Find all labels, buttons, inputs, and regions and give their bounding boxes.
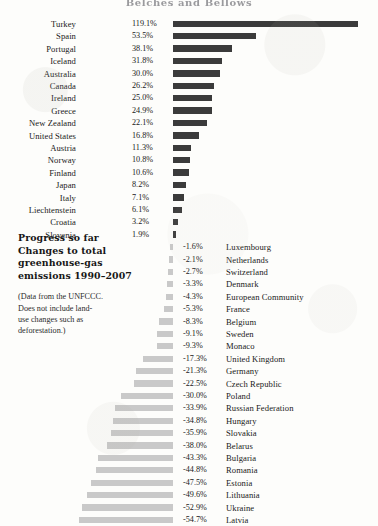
caption-heading-line-2: greenhouse-gas <box>18 257 158 270</box>
chart-row: Japan8.2% <box>0 179 378 191</box>
bar-positive <box>173 182 186 188</box>
bar-negative <box>168 269 173 275</box>
chart-row: -49.6%Lithuania <box>0 489 378 501</box>
bar-label-country: Ireland <box>51 92 76 104</box>
bar-label-country: New Zealand <box>29 117 76 129</box>
bar-label-country: Denmark <box>226 278 259 290</box>
chart-caption-block: Progress so farChanges to totalgreenhous… <box>18 232 158 336</box>
bar-label-country: Japan <box>56 179 76 191</box>
chart-row: New Zealand22.1% <box>0 117 378 129</box>
bar-label-country: Greece <box>51 105 76 117</box>
bar-positive <box>173 58 222 64</box>
bar-positive <box>173 83 214 89</box>
bar-negative <box>87 492 173 498</box>
bar-label-value: -8.3% <box>183 316 223 328</box>
bar-positive <box>173 70 220 76</box>
chart-row: Liechtenstein6.1% <box>0 204 378 216</box>
bar-negative <box>115 405 173 411</box>
bar-label-country: Slovakia <box>226 427 257 439</box>
bar-positive <box>173 132 199 138</box>
bar-label-value: -1.6% <box>183 241 223 253</box>
chart-row: -43.3%Bulgaria <box>0 452 378 464</box>
bar-label-value: -2.1% <box>183 254 223 266</box>
bar-negative <box>79 517 173 523</box>
bar-positive <box>173 45 232 51</box>
bar-label-country: Germany <box>226 365 259 377</box>
bar-label-value: -35.9% <box>183 427 223 439</box>
bar-label-country: Latvia <box>226 514 248 526</box>
bar-negative <box>166 294 173 300</box>
bar-label-country: Italy <box>60 192 76 204</box>
chart-row: -21.3%Germany <box>0 365 378 377</box>
bar-positive <box>173 145 191 151</box>
caption-note: (Data from the UNFCCC.Does not include l… <box>18 291 158 336</box>
bar-label-country: Czech Republic <box>226 378 282 390</box>
bar-negative <box>170 244 173 250</box>
bar-negative <box>134 380 173 386</box>
bar-label-value: 8.2% <box>132 179 168 191</box>
bar-label-country: Poland <box>226 390 250 402</box>
bar-label-value: -49.6% <box>183 489 223 501</box>
bar-negative <box>159 318 173 324</box>
chart-row: Iceland31.8% <box>0 55 378 67</box>
chart-row: Ireland25.0% <box>0 92 378 104</box>
chart-row: -35.9%Slovakia <box>0 427 378 439</box>
bar-label-value: -34.8% <box>183 415 223 427</box>
bar-label-country: Iceland <box>50 55 76 67</box>
bar-label-value: -47.5% <box>183 477 223 489</box>
bar-label-country: France <box>226 303 250 315</box>
chart-row: Finland10.6% <box>0 167 378 179</box>
bar-positive <box>173 157 190 163</box>
bar-label-value: 10.8% <box>132 154 168 166</box>
bar-label-value: -5.3% <box>183 303 223 315</box>
bar-positive <box>173 207 182 213</box>
caption-heading-line-0: Progress so far <box>18 232 158 245</box>
bar-label-country: Russian Federation <box>226 402 294 414</box>
bar-label-value: 16.8% <box>132 130 168 142</box>
bar-negative <box>121 393 173 399</box>
bar-positive <box>173 219 178 225</box>
bar-negative <box>98 455 173 461</box>
bar-label-country: Hungary <box>226 415 257 427</box>
bar-negative <box>169 256 173 262</box>
chart-row: -9.3%Monaco <box>0 340 378 352</box>
bar-label-country: United States <box>29 130 76 142</box>
bar-positive <box>173 107 212 113</box>
chart-row: Turkey119.1% <box>0 18 378 30</box>
bar-label-value: 24.9% <box>132 105 168 117</box>
chart-row: -33.9%Russian Federation <box>0 402 378 414</box>
chart-row: Greece24.9% <box>0 105 378 117</box>
bar-label-country: Finland <box>49 167 76 179</box>
bar-label-value: 38.1% <box>132 43 168 55</box>
bar-label-value: -44.8% <box>183 464 223 476</box>
caption-note-line-0: (Data from the UNFCCC. <box>18 291 158 302</box>
bar-label-value: -4.3% <box>183 291 223 303</box>
bar-label-value: 3.2% <box>132 216 168 228</box>
bar-label-country: Monaco <box>226 340 255 352</box>
bar-label-value: 22.1% <box>132 117 168 129</box>
chart-row: Spain53.5% <box>0 30 378 42</box>
bar-label-value: 30.0% <box>132 68 168 80</box>
bar-positive <box>173 21 358 27</box>
chart-row: -30.0%Poland <box>0 390 378 402</box>
chart-row: Italy7.1% <box>0 192 378 204</box>
bar-label-value: -54.7% <box>183 514 223 526</box>
bar-label-value: -30.0% <box>183 390 223 402</box>
bar-label-value: -43.3% <box>183 452 223 464</box>
chart-row: -44.8%Romania <box>0 464 378 476</box>
bar-label-country: Belgium <box>226 316 256 328</box>
bar-label-value: 10.6% <box>132 167 168 179</box>
bar-label-country: Belarus <box>226 440 253 452</box>
bar-label-country: Romania <box>226 464 258 476</box>
bar-negative <box>157 331 173 337</box>
bar-label-value: -21.3% <box>183 365 223 377</box>
bar-label-value: 7.1% <box>132 192 168 204</box>
chart-row: Croatia3.2% <box>0 216 378 228</box>
chart-row: Norway10.8% <box>0 154 378 166</box>
bar-label-country: United Kingdom <box>226 353 285 365</box>
bar-label-value: 25.0% <box>132 92 168 104</box>
caption-note-line-3: deforestation.) <box>18 325 158 336</box>
bar-label-value: 119.1% <box>132 18 168 30</box>
bar-label-value: 26.2% <box>132 80 168 92</box>
bar-label-country: Spain <box>56 30 76 42</box>
